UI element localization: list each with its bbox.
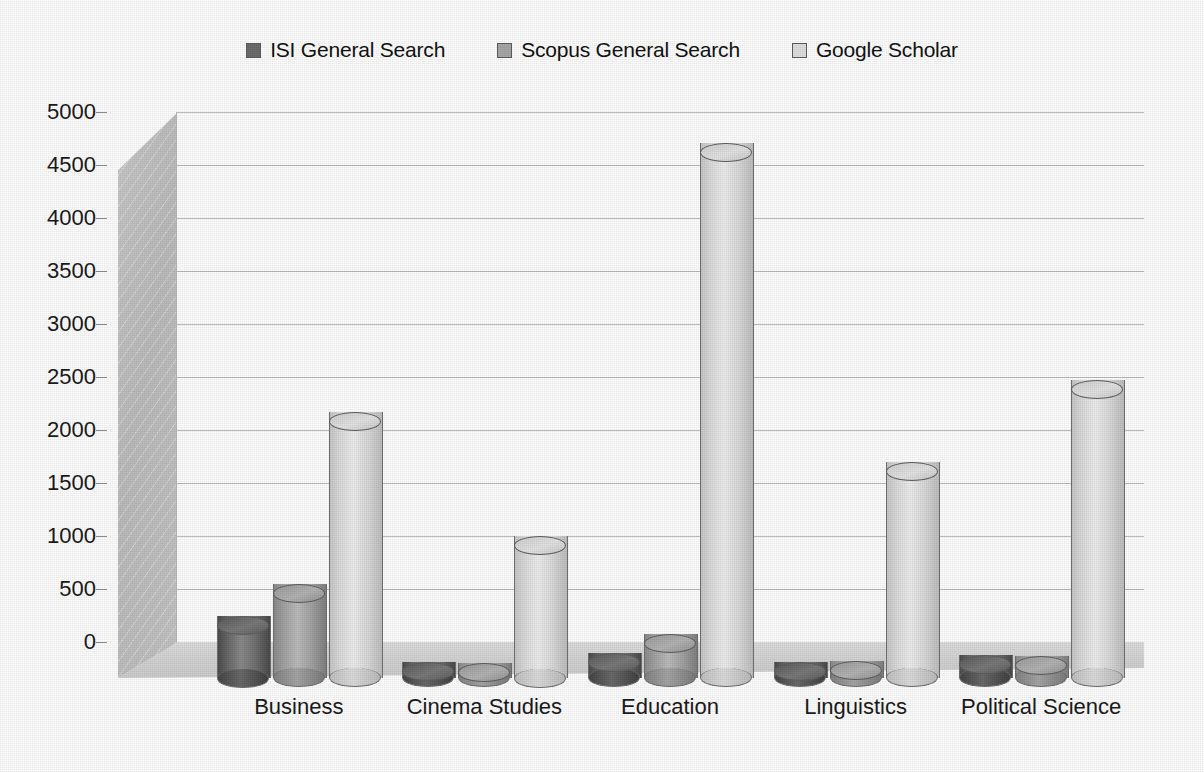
bar-cylinder[interactable] <box>959 655 1011 688</box>
bar-body <box>1071 380 1125 678</box>
x-axis-category-label: Business <box>254 694 343 720</box>
bar-base-ellipse <box>886 668 938 687</box>
y-axis-tick-label: 4000 <box>47 205 96 231</box>
bar-top-ellipse <box>774 662 826 681</box>
y-axis-tick-label: 3500 <box>47 258 96 284</box>
y-axis-tick-label: 2500 <box>47 364 96 390</box>
y-axis-tick-mark <box>96 589 107 590</box>
bar-top-ellipse <box>329 412 381 431</box>
y-axis-tick-mark <box>96 271 107 272</box>
bar-cylinder[interactable] <box>514 536 566 688</box>
bar-cylinder[interactable] <box>886 462 938 688</box>
bar-cylinder[interactable] <box>1071 380 1123 687</box>
legend-label: Google Scholar <box>816 38 958 62</box>
y-axis-tick-mark <box>96 430 107 431</box>
bar-top-ellipse <box>1015 656 1067 675</box>
plot-area <box>118 112 1144 678</box>
y-axis: 0500100015002000250030003500400045005000 <box>0 112 112 678</box>
y-axis-tick-label: 0 <box>84 629 96 655</box>
bar-base-ellipse <box>273 668 325 687</box>
legend-swatch-icon <box>792 43 807 58</box>
bar-top-ellipse <box>588 653 640 672</box>
legend-item-isi-general-search[interactable]: ISI General Search <box>246 38 445 62</box>
bar-top-ellipse <box>644 634 696 653</box>
bar-body <box>886 462 940 678</box>
bar-cylinder[interactable] <box>830 661 882 687</box>
y-axis-tick-label: 1000 <box>47 523 96 549</box>
bar-cylinder[interactable] <box>458 663 510 687</box>
bar-base-ellipse <box>700 668 752 687</box>
legend-swatch-icon <box>497 43 512 58</box>
x-axis: BusinessCinema StudiesEducationLinguisti… <box>118 694 1144 734</box>
bar-base-ellipse <box>217 669 269 688</box>
x-axis-category-label: Linguistics <box>804 694 907 720</box>
bar-cylinder[interactable] <box>644 634 696 688</box>
bar-top-ellipse <box>886 462 938 481</box>
bar-cylinder[interactable] <box>588 653 640 688</box>
y-axis-tick-label: 3000 <box>47 311 96 337</box>
bar-top-ellipse <box>700 143 752 162</box>
bar-top-ellipse <box>959 655 1011 674</box>
y-axis-tick-label: 2000 <box>47 417 96 443</box>
bar-body <box>329 412 383 678</box>
y-axis-tick-mark <box>96 218 107 219</box>
bar-body <box>514 536 568 678</box>
y-axis-tick-mark <box>96 324 107 325</box>
bar-top-ellipse <box>514 536 566 555</box>
x-axis-category-label: Political Science <box>961 694 1121 720</box>
bar-base-ellipse <box>1071 668 1123 687</box>
y-axis-tick-mark <box>96 642 107 643</box>
bar-top-ellipse <box>273 584 325 603</box>
bars-layer <box>118 112 1144 678</box>
y-axis-tick-mark <box>96 483 107 484</box>
chart-container: ISI General Search Scopus General Search… <box>0 0 1204 772</box>
y-axis-tick-mark <box>96 377 107 378</box>
bar-cylinder[interactable] <box>700 143 752 688</box>
y-axis-tick-mark <box>96 165 107 166</box>
y-axis-tick-label: 500 <box>59 576 96 602</box>
bar-cylinder[interactable] <box>402 662 454 687</box>
y-axis-tick-mark <box>96 112 107 113</box>
y-axis-tick-mark <box>96 536 107 537</box>
legend-item-scopus-general-search[interactable]: Scopus General Search <box>497 38 740 62</box>
y-axis-tick-label: 1500 <box>47 470 96 496</box>
legend-label: Scopus General Search <box>521 38 740 62</box>
bar-base-ellipse <box>329 668 381 687</box>
legend-label: ISI General Search <box>270 38 445 62</box>
bar-cylinder[interactable] <box>774 662 826 687</box>
bar-base-ellipse <box>644 668 696 687</box>
bar-cylinder[interactable] <box>1015 656 1067 688</box>
x-axis-category-label: Cinema Studies <box>407 694 562 720</box>
legend-swatch-icon <box>246 43 261 58</box>
bar-top-ellipse <box>217 616 269 635</box>
bar-cylinder[interactable] <box>329 412 381 688</box>
bar-top-ellipse <box>830 661 882 680</box>
y-axis-tick-label: 5000 <box>47 99 96 125</box>
y-axis-tick-label: 4500 <box>47 152 96 178</box>
bar-cylinder[interactable] <box>217 616 269 688</box>
bar-body <box>700 143 754 678</box>
chart-legend: ISI General Search Scopus General Search… <box>0 38 1204 62</box>
x-axis-category-label: Education <box>621 694 719 720</box>
bar-base-ellipse <box>514 669 566 688</box>
bar-cylinder[interactable] <box>273 584 325 688</box>
legend-item-google-scholar[interactable]: Google Scholar <box>792 38 958 62</box>
